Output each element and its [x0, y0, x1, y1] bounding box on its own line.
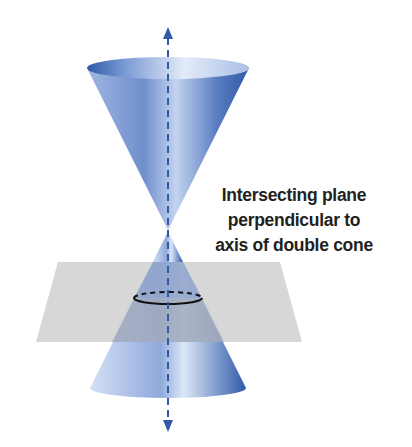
arrow-up-icon	[163, 27, 173, 39]
label-line-1: Intersecting plane	[200, 183, 388, 208]
label-line-3: axis of double cone	[200, 233, 388, 258]
label-line-2: perpendicular to	[200, 208, 388, 233]
diagram-label: Intersecting plane perpendicular to axis…	[200, 183, 388, 258]
arrow-down-icon	[163, 420, 173, 432]
